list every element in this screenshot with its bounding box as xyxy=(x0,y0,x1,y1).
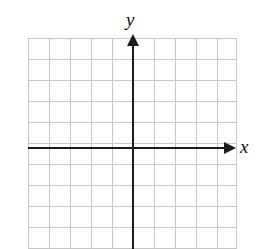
x-axis-line xyxy=(28,147,230,149)
y-axis-line xyxy=(132,44,134,249)
y-axis-label: y xyxy=(126,10,134,29)
y-axis-arrow-icon xyxy=(127,34,139,46)
coordinate-grid-figure: x y xyxy=(0,0,258,249)
x-axis-label: x xyxy=(240,137,248,156)
x-axis-arrow-icon xyxy=(224,142,236,154)
